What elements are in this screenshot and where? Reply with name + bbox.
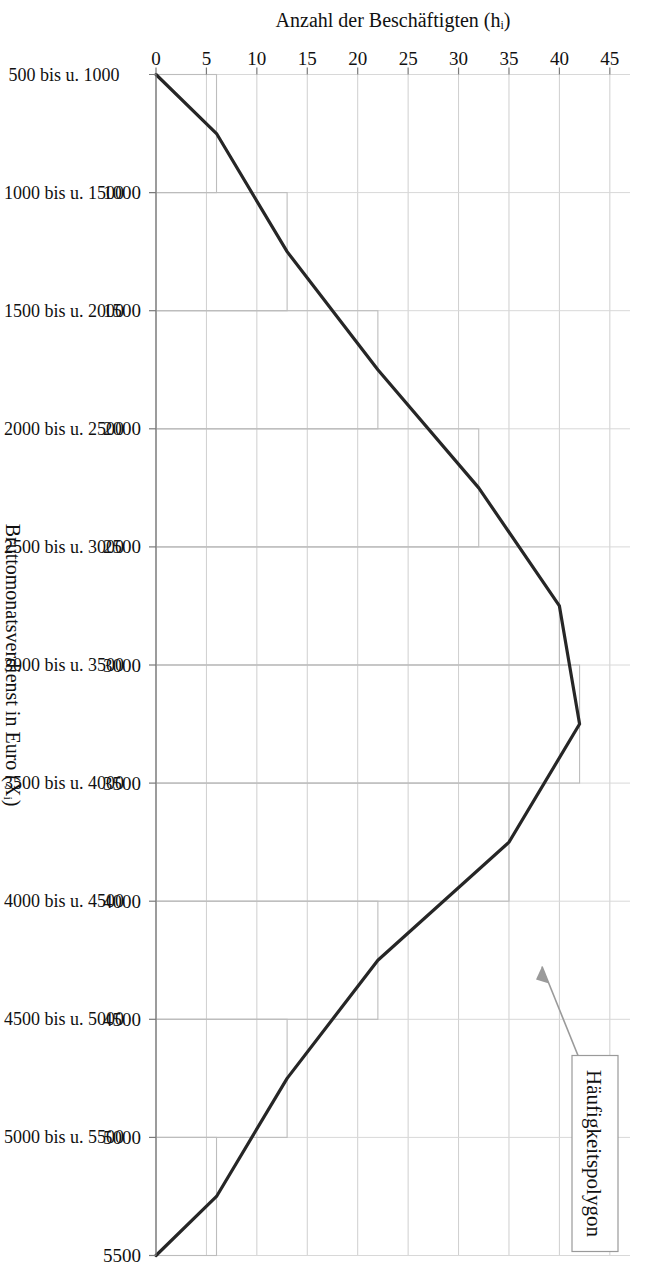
x-axis-title: Bruttomonatsverdienst in Euro (Xᵢ) <box>1 523 24 806</box>
histogram-bar <box>156 192 287 310</box>
axis-lines-and-ticks <box>149 67 610 1255</box>
y-axis-title: Anzahl der Beschäftigten (hᵢ) <box>276 8 511 31</box>
histogram-bars <box>156 74 580 1255</box>
annotation-label: Häufigkeitspolygon <box>582 1070 606 1237</box>
y-axis-tick-label: 25 <box>399 48 418 69</box>
histogram-bar <box>156 428 479 546</box>
annotation-arrow-head <box>536 966 549 983</box>
x-axis-class-label: 4500 bis u. 5000 <box>4 1009 124 1029</box>
y-axis-tick-label: 5 <box>202 48 212 69</box>
y-axis-tick-label: 45 <box>600 48 619 69</box>
y-axis-tick-label: 15 <box>298 48 317 69</box>
histogram-bar <box>156 1137 217 1255</box>
histogram-bar <box>156 74 217 192</box>
y-axis-tick-label: 35 <box>499 48 518 69</box>
x-axis-class-label: 1500 bis u. 2000 <box>4 300 124 320</box>
annotation-arrow-line <box>542 966 578 1055</box>
x-axis-class-label: 500 bis u. 1000 <box>8 64 119 84</box>
histogram-bar <box>156 665 580 783</box>
annotation-callout: Häufigkeitspolygon <box>536 966 618 1251</box>
x-axis-class-label: 1000 bis u. 1500 <box>4 182 124 202</box>
x-axis-class-label: 5000 bis u. 5500 <box>4 1127 124 1147</box>
y-axis-tick-label: 30 <box>449 48 468 69</box>
rotated-figure-wrapper: 051015202530354045 100015002000250030003… <box>0 0 648 1277</box>
y-axis-tick-label: 20 <box>348 48 367 69</box>
x-axis-class-label: 4000 bis u. 4500 <box>4 891 124 911</box>
x-axis-tick-labels: 1000150020002500300035004000450050005500 <box>103 182 141 1266</box>
y-axis-tick-label: 40 <box>550 48 569 69</box>
y-axis-tick-label: 10 <box>247 48 266 69</box>
y-axis-tick-label: 0 <box>151 48 161 69</box>
x-axis-class-label: 2000 bis u. 2500 <box>4 418 124 438</box>
histogram-bar <box>156 1019 287 1137</box>
x-axis-tick-label: 5500 <box>103 1245 141 1266</box>
y-axis-tick-labels: 051015202530354045 <box>151 48 619 69</box>
chart-figure: 051015202530354045 100015002000250030003… <box>0 0 648 1277</box>
histogram-frequency-polygon-chart: 051015202530354045 100015002000250030003… <box>0 0 648 1277</box>
figure-canvas: 051015202530354045 100015002000250030003… <box>0 0 648 1277</box>
histogram-bar <box>156 783 509 901</box>
